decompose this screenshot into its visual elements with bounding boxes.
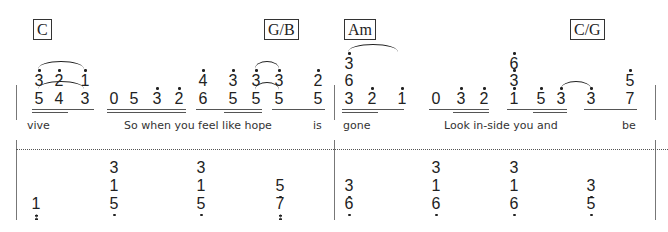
barline	[334, 85, 335, 120]
note-5: 5	[227, 91, 239, 107]
beam-underline	[196, 109, 262, 110]
beam-underline	[224, 112, 262, 113]
bass-note-1: 1	[108, 178, 120, 194]
beam-underline	[453, 112, 489, 113]
note-3: 3	[585, 91, 597, 107]
bass-note-3: 3	[585, 178, 597, 194]
beam-underline	[107, 109, 186, 110]
bass-note-1: 1	[30, 196, 42, 212]
note-5: 5	[33, 91, 45, 107]
lyric-text: So when you feel like hope	[124, 119, 272, 133]
bass-note-3: 3	[508, 160, 520, 176]
lyric-text: is	[313, 119, 322, 133]
lyric-text: Look in-side you and	[444, 119, 558, 133]
note-5: 5	[624, 73, 636, 89]
note-5: 5	[250, 91, 262, 107]
beam-underline	[32, 109, 94, 110]
staff-separator-dotted-line	[16, 149, 668, 150]
note-2: 2	[478, 91, 490, 107]
bass-note-6: 6	[343, 196, 355, 212]
note-5: 5	[128, 91, 140, 107]
note-2: 2	[366, 91, 378, 107]
bass-note-3: 3	[108, 160, 120, 176]
bass-note-1: 1	[508, 178, 520, 194]
beam-underline	[342, 112, 378, 113]
slur-arc	[38, 81, 84, 89]
bass-note-3: 3	[343, 178, 355, 194]
bass-note-3: 3	[430, 160, 442, 176]
beam-underline	[584, 109, 637, 110]
bass-note-6: 6	[430, 196, 442, 212]
note-3: 3	[151, 91, 163, 107]
note-1: 1	[396, 91, 408, 107]
bass-note-1: 1	[195, 178, 207, 194]
note-3: 3	[227, 73, 239, 89]
lyric-text: be	[622, 119, 636, 133]
bass-note-5: 5	[274, 178, 286, 194]
note-7: 7	[624, 91, 636, 107]
bass-note-3: 3	[195, 160, 207, 176]
chord-symbol: G/B	[264, 19, 299, 40]
note-3: 3	[555, 91, 567, 107]
note-6: 6	[343, 73, 355, 89]
beam-underline	[429, 109, 489, 110]
barline	[16, 85, 17, 120]
slur-arc	[348, 44, 398, 52]
beam-underline	[507, 109, 567, 110]
note-1: 1	[508, 91, 520, 107]
note-2: 2	[173, 91, 185, 107]
note-2: 2	[312, 73, 324, 89]
bass-note-7: 7	[274, 196, 286, 212]
note-5: 5	[273, 91, 285, 107]
beam-underline	[342, 109, 404, 110]
beam-underline	[107, 112, 186, 113]
barline	[655, 85, 656, 120]
slur-arc	[561, 81, 591, 89]
note-3: 3	[455, 91, 467, 107]
barline	[655, 140, 656, 220]
bass-note-6: 6	[508, 196, 520, 212]
bass-note-5: 5	[195, 196, 207, 212]
barline	[334, 140, 335, 220]
bass-note-5: 5	[585, 196, 597, 212]
lyric-text: vive	[27, 119, 50, 133]
bass-note-5: 5	[108, 196, 120, 212]
beam-underline	[533, 112, 567, 113]
beam-underline	[272, 109, 325, 110]
note-5: 5	[312, 91, 324, 107]
bass-note-1: 1	[430, 178, 442, 194]
chord-symbol: C	[33, 19, 52, 40]
note-0: 0	[108, 91, 120, 107]
chord-symbol: Am	[344, 19, 376, 40]
note-4: 4	[53, 91, 65, 107]
note-3: 3	[343, 91, 355, 107]
note-0: 0	[430, 91, 442, 107]
note-3: 3	[343, 56, 355, 72]
lyric-text: gone	[343, 119, 370, 133]
chord-symbol: C/G	[570, 19, 605, 40]
note-6: 6	[197, 91, 209, 107]
slur-arc	[255, 61, 279, 69]
beam-underline	[32, 112, 68, 113]
note-4: 4	[197, 73, 209, 89]
note-5: 5	[535, 91, 547, 107]
note-3: 3	[79, 91, 91, 107]
slur-arc	[38, 61, 84, 69]
barline	[16, 140, 17, 220]
